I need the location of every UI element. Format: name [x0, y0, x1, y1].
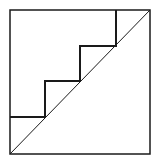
staircase-line	[10, 10, 116, 117]
staircase-diagram	[0, 0, 158, 160]
